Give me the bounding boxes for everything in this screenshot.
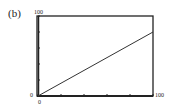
plot-frame	[37, 16, 153, 96]
axis-ticks	[38, 16, 153, 96]
plot-area	[0, 0, 173, 109]
data-line	[38, 32, 153, 96]
